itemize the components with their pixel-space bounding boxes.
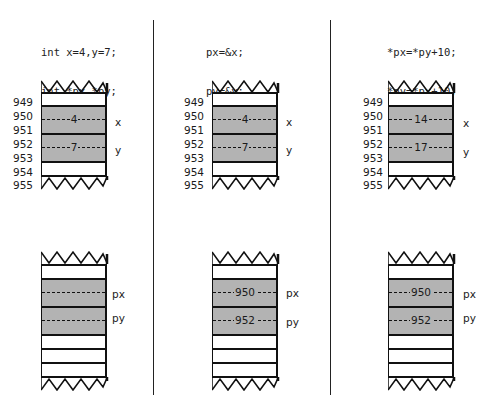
cell-border	[41, 264, 107, 266]
value-py: 952	[388, 314, 454, 326]
address-949: 949	[5, 96, 33, 108]
cell-border	[212, 334, 278, 336]
torn-edge-top	[388, 250, 456, 264]
memory-cell-954	[388, 161, 454, 175]
memory-cell	[388, 362, 454, 376]
memory-block-variables: 14 17	[388, 79, 454, 197]
memory-cell-949	[388, 92, 454, 105]
value-py-text: 952	[410, 314, 432, 326]
panel-assign-pointers: px=&x; py=&y; 949 950 951 952 953 954 95…	[154, 0, 330, 410]
torn-edge-bottom	[212, 377, 280, 391]
memory-cell	[41, 264, 107, 278]
memory-cell	[41, 362, 107, 376]
cell-border	[212, 161, 278, 163]
memory-cell	[388, 348, 454, 362]
cell-border	[41, 161, 107, 163]
cell-border	[388, 306, 454, 308]
memory-cell-954	[212, 161, 278, 175]
cell-border	[41, 278, 107, 280]
address-951: 951	[176, 124, 204, 136]
cell-border	[388, 348, 454, 350]
label-y: y	[286, 144, 292, 156]
code-line: int x=4,y=7;	[41, 46, 117, 59]
value-y: 7	[41, 141, 107, 153]
cell-border	[212, 362, 278, 364]
memory-cell	[388, 334, 454, 348]
label-px: px	[286, 287, 299, 299]
variable-divider-px	[42, 292, 105, 293]
torn-edge-bottom	[388, 377, 456, 391]
torn-edge-bottom	[212, 176, 280, 190]
value-y: 17	[388, 141, 454, 153]
cell-border	[41, 105, 107, 107]
memory-block-variables: 4 7	[212, 79, 278, 197]
value-y-text: 7	[241, 141, 250, 153]
torn-edge-bottom	[41, 176, 109, 190]
value-x-text: 4	[241, 113, 250, 125]
memory-block-variables: 4 7	[41, 79, 107, 197]
address-954: 954	[5, 166, 33, 178]
label-py: py	[463, 312, 476, 324]
panel-dereference: *px=*py+10; *py=*px+10; 949 950 951 952 …	[331, 0, 489, 410]
address-952: 952	[176, 138, 204, 150]
value-py: 952	[212, 314, 278, 326]
label-py: py	[286, 316, 299, 328]
address-951: 951	[5, 124, 33, 136]
memory-cell	[388, 264, 454, 278]
cell-border	[212, 306, 278, 308]
torn-edge-top	[388, 79, 456, 93]
torn-edge-top	[212, 250, 280, 264]
memory-cell	[212, 348, 278, 362]
address-953: 953	[355, 152, 383, 164]
variable-divider-py	[42, 320, 105, 321]
cell-border	[212, 264, 278, 266]
memory-cell	[41, 348, 107, 362]
memory-cell	[212, 264, 278, 278]
value-x: 4	[212, 113, 278, 125]
value-x-text: 14	[413, 113, 428, 125]
cell-border	[212, 348, 278, 350]
value-x: 4	[41, 113, 107, 125]
label-px: px	[463, 288, 476, 300]
torn-edge-bottom	[388, 176, 456, 190]
code-line: *px=*py+10;	[387, 46, 457, 59]
value-px: 950	[212, 286, 278, 298]
label-py: py	[112, 312, 125, 324]
address-950: 950	[5, 110, 33, 122]
memory-cell	[212, 334, 278, 348]
value-y-text: 17	[413, 141, 428, 153]
address-950: 950	[176, 110, 204, 122]
torn-edge-top	[41, 79, 109, 93]
value-y-text: 7	[70, 141, 79, 153]
cell-border	[388, 161, 454, 163]
cell-border	[388, 278, 454, 280]
address-952: 952	[355, 138, 383, 150]
value-x: 14	[388, 113, 454, 125]
torn-edge-bottom	[41, 377, 109, 391]
memory-cell-949	[212, 92, 278, 105]
cell-border	[388, 133, 454, 135]
address-955: 955	[355, 179, 383, 191]
value-x-text: 4	[70, 113, 79, 125]
memory-block-pointers	[41, 250, 107, 396]
label-x: x	[115, 116, 121, 128]
address-955: 955	[5, 179, 33, 191]
value-px-text: 950	[234, 286, 256, 298]
address-953: 953	[176, 152, 204, 164]
cell-border	[41, 92, 107, 94]
memory-cell	[41, 334, 107, 348]
cell-border	[388, 92, 454, 94]
memory-block-pointers: 950 952	[212, 250, 278, 396]
cell-border	[212, 105, 278, 107]
memory-cell	[212, 362, 278, 376]
torn-edge-top	[212, 79, 280, 93]
address-952: 952	[5, 138, 33, 150]
address-950: 950	[355, 110, 383, 122]
cell-border	[212, 92, 278, 94]
cell-border	[388, 264, 454, 266]
memory-block-pointers: 950 952	[388, 250, 454, 396]
cell-border	[41, 133, 107, 135]
address-953: 953	[5, 152, 33, 164]
cell-border	[388, 334, 454, 336]
cell-border	[41, 334, 107, 336]
